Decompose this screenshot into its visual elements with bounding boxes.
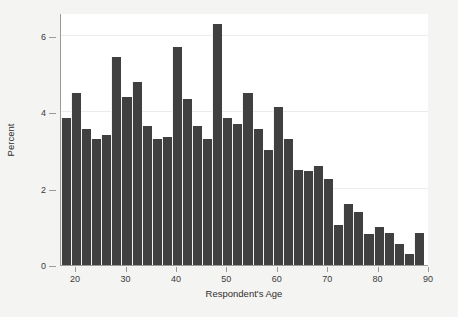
x-tick-label-60: 60 [272, 274, 282, 284]
y-axis-title: Percent [5, 124, 16, 157]
histogram-bar [212, 24, 222, 265]
y-tick-mark-6 [49, 37, 56, 38]
y-tick-mark-0 [49, 266, 56, 267]
histogram-bar [343, 204, 353, 265]
histogram-bar [81, 129, 91, 265]
histogram-bar [61, 118, 71, 265]
y-tick-mark-2 [49, 190, 56, 191]
x-tick-label-40: 40 [171, 274, 181, 284]
histogram-bar [384, 233, 394, 265]
y-tick-label-6: 6 [41, 32, 46, 42]
histogram-bar [414, 233, 424, 265]
histogram-bar [394, 244, 404, 265]
histogram-bar [192, 126, 202, 265]
histogram-bar [242, 93, 252, 265]
x-tick-mark-80 [378, 267, 379, 272]
graph-region: 0246 Percent 2030405060708090 Respondent… [0, 0, 458, 317]
histogram-bar [232, 124, 242, 265]
histogram-bar [222, 118, 232, 265]
x-axis-title: Respondent's Age [206, 288, 283, 299]
chart-screenshot: 0246 Percent 2030405060708090 Respondent… [0, 0, 458, 317]
histogram-bar [323, 179, 333, 265]
plot-area [61, 14, 428, 265]
histogram-bar [142, 126, 152, 265]
x-tick-label-90: 90 [423, 274, 433, 284]
histogram-bar [333, 225, 343, 265]
x-tick-mark-50 [226, 267, 227, 272]
y-tick-label-0: 0 [41, 261, 46, 271]
x-tick-mark-30 [126, 267, 127, 272]
histogram-bar [303, 171, 313, 265]
y-tick-label-2: 2 [41, 185, 46, 195]
histogram-bar [253, 129, 263, 265]
y-tick-mark-4 [49, 113, 56, 114]
histogram-bar [101, 135, 111, 265]
y-tick-label-4: 4 [41, 108, 46, 118]
histogram-bar [111, 57, 121, 265]
histogram-bar [91, 139, 101, 265]
histogram-bar [374, 227, 384, 265]
histogram-bar [283, 139, 293, 265]
x-tick-mark-60 [277, 267, 278, 272]
histogram-bar [293, 170, 303, 265]
histogram-bar [202, 139, 212, 265]
histogram-bar [182, 99, 192, 265]
histogram-bar [353, 212, 363, 265]
histogram-bar [404, 254, 414, 265]
x-tick-mark-40 [176, 267, 177, 272]
histogram-bar [132, 82, 142, 265]
x-tick-label-20: 20 [70, 274, 80, 284]
histogram-bar [71, 93, 81, 265]
x-tick-mark-20 [75, 267, 76, 272]
histogram-bar [152, 139, 162, 265]
histogram-bar [273, 107, 283, 265]
histogram-bar [363, 234, 373, 265]
histogram-bar [162, 137, 172, 265]
x-tick-label-30: 30 [121, 274, 131, 284]
x-tick-label-80: 80 [373, 274, 383, 284]
x-tick-label-50: 50 [221, 274, 231, 284]
x-tick-mark-90 [428, 267, 429, 272]
histogram-bar [172, 47, 182, 265]
gridline-y-6 [61, 35, 428, 36]
x-tick-label-70: 70 [322, 274, 332, 284]
plot-frame [60, 14, 428, 266]
x-tick-mark-70 [327, 267, 328, 272]
histogram-bar [263, 150, 273, 265]
histogram-bar [313, 166, 323, 265]
histogram-bar [121, 97, 131, 265]
